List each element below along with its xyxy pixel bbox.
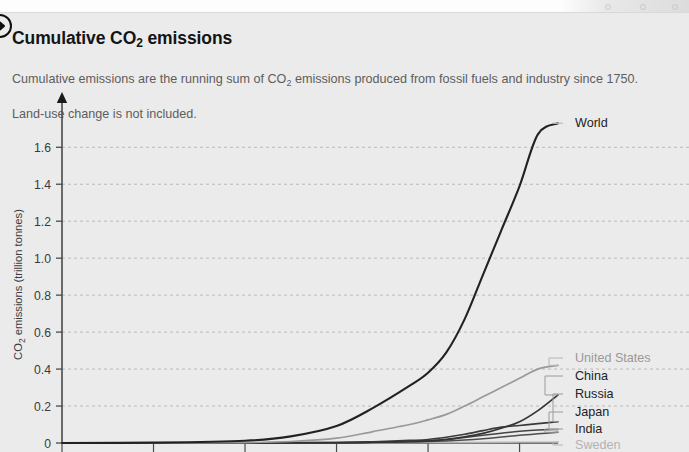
series-label-world[interactable]: World [575, 116, 608, 130]
page-top-rule [0, 12, 689, 13]
label-leader-line [549, 412, 563, 430]
series-label-india[interactable]: India [575, 422, 602, 436]
y-axis-tick-label: 1.6 [34, 141, 51, 155]
label-leader-line [545, 376, 563, 395]
cumulative-co2-line-chart: 00.20.40.60.81.01.21.41.6 WorldUnited St… [0, 92, 689, 452]
y-axis-tick-label: 0.4 [34, 363, 51, 377]
series-label-japan[interactable]: Japan [575, 405, 609, 419]
series-label-china[interactable]: China [575, 369, 608, 383]
series-label-sweden[interactable]: Sweden [575, 438, 621, 452]
y-axis-arrowhead [57, 92, 67, 103]
series-label-russia[interactable]: Russia [575, 387, 614, 401]
y-axis-title: CO2 emissions (trillion tonnes) [12, 209, 27, 360]
y-axis-tick-label: 0.8 [34, 289, 51, 303]
y-axis-tick-label: 1.0 [34, 252, 51, 266]
y-axis-ticks: 00.20.40.60.81.01.21.41.6 [34, 141, 62, 451]
subtitle-part-2: emissions produced from fossil fuels and… [291, 72, 638, 86]
page-top-smudge [560, 0, 689, 12]
chart-area: 00.20.40.60.81.01.21.41.6 WorldUnited St… [0, 92, 689, 452]
page-title-main: Cumulative CO [12, 28, 136, 48]
page-title-subscript: 2 [136, 36, 143, 50]
page-title: Cumulative CO2 emissions [12, 28, 232, 49]
subtitle-subscript: 2 [286, 78, 291, 88]
y-axis-tick-label: 1.4 [34, 178, 51, 192]
y-axis-tick-label: 0.2 [34, 400, 51, 414]
circled-arrow-right-icon[interactable] [0, 14, 12, 38]
grid-lines [62, 147, 689, 406]
y-axis-tick-label: 0 [44, 437, 51, 451]
page-title-tail: emissions [143, 28, 232, 48]
label-leader-line [549, 358, 563, 365]
label-leader-line [545, 429, 563, 432]
top-dot-1 [605, 4, 611, 10]
y-axis-title-group: CO2 emissions (trillion tonnes) [12, 209, 27, 360]
series-label-united-states[interactable]: United States [575, 351, 651, 365]
series-labels: WorldUnited StatesChinaRussiaJapanIndiaS… [545, 116, 651, 452]
data-series [62, 123, 558, 443]
chart-page: Cumulative CO2 emissions Cumulative emis… [0, 0, 689, 452]
series-line[interactable] [62, 123, 558, 443]
top-dot-3 [672, 4, 678, 10]
y-axis-tick-label: 0.6 [34, 326, 51, 340]
y-axis-title-text: CO2 emissions (trillion tonnes) [12, 209, 27, 360]
top-dot-2 [640, 4, 646, 10]
y-axis-tick-label: 1.2 [34, 215, 51, 229]
series-line[interactable] [62, 365, 558, 443]
axes [57, 92, 558, 452]
subtitle-part-1: Cumulative emissions are the running sum… [12, 72, 286, 86]
